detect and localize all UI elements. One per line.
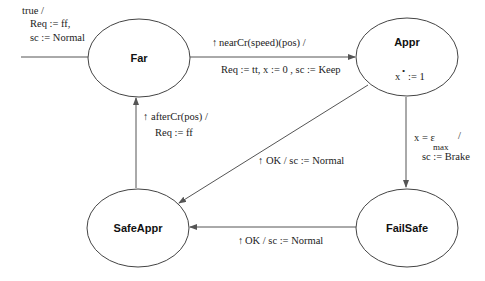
far-appr-label-line1: nearCr(speed)(pos) / xyxy=(219,37,306,49)
up-arrow-icon: ↑ xyxy=(143,111,148,122)
appr-invariant-dot: • xyxy=(402,66,405,76)
transition-safeappr-to-far: ↑ afterCr(pos) / Req := ff xyxy=(136,98,208,188)
state-diagram: true / Req := ff, sc := Normal ↑ nearCr(… xyxy=(0,0,485,281)
transition-appr-to-safeappr: ↑ OK / sc := Normal xyxy=(179,85,368,203)
appr-failsafe-slash: / xyxy=(458,130,461,141)
transition-far-to-appr: ↑ nearCr(speed)(pos) / Req := tt, x := 0… xyxy=(190,37,355,75)
appr-safeappr-label: OK / sc := Normal xyxy=(266,155,344,166)
initial-label-line1: true / xyxy=(22,5,44,16)
up-arrow-icon: ↑ xyxy=(238,235,243,246)
state-appr: Appr x • := 1 xyxy=(356,18,458,96)
appr-invariant-var: x xyxy=(395,71,401,82)
state-failsafe: FailSafe xyxy=(356,189,458,267)
state-far: Far xyxy=(88,19,190,97)
state-safeappr: SafeAppr xyxy=(87,189,189,267)
far-appr-label-line2: Req := tt, x := 0 , sc := Keep xyxy=(221,64,341,75)
safeappr-far-label-line1: afterCr(pos) / xyxy=(151,111,208,123)
state-failsafe-label: FailSafe xyxy=(386,222,428,234)
initial-label-line2: Req := ff, xyxy=(30,18,70,29)
state-appr-label: Appr xyxy=(394,36,420,48)
transition-failsafe-to-safeappr: ↑ OK / sc := Normal xyxy=(190,227,356,246)
appr-invariant-rhs: := 1 xyxy=(408,71,425,82)
appr-failsafe-action: sc := Brake xyxy=(422,151,470,162)
failsafe-safeappr-label: OK / sc := Normal xyxy=(245,235,323,246)
state-far-label: Far xyxy=(130,52,148,64)
safeappr-far-label-line2: Req := ff xyxy=(155,127,193,138)
initial-transition: true / Req := ff, sc := Normal xyxy=(21,5,88,57)
transition-appr-to-failsafe: x = ε max / sc := Brake xyxy=(406,97,470,187)
initial-label-line3: sc := Normal xyxy=(30,32,85,43)
state-safeappr-label: SafeAppr xyxy=(114,222,164,234)
up-arrow-icon: ↑ xyxy=(212,37,217,48)
up-arrow-icon: ↑ xyxy=(258,155,263,166)
